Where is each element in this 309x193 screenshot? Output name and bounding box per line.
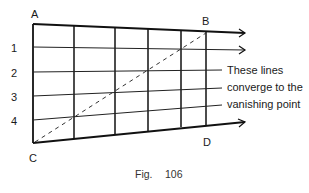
annotation-line-1: These lines bbox=[227, 64, 284, 76]
point-label-d: D bbox=[203, 136, 211, 148]
figure-caption-number: 106 bbox=[165, 168, 183, 180]
bottom-edge-cd bbox=[33, 122, 245, 143]
row-line-4 bbox=[33, 105, 222, 120]
top-edge-ab bbox=[33, 24, 245, 33]
annotation-line-3: vanishing point bbox=[227, 98, 300, 110]
row-label-4: 4 bbox=[11, 115, 17, 127]
row-label-1: 1 bbox=[11, 42, 17, 54]
perspective-grid-diagram: A B C D 1 2 3 4 These lines converge to … bbox=[0, 0, 309, 193]
point-label-b: B bbox=[202, 15, 209, 27]
row-line-2 bbox=[33, 70, 222, 72]
point-label-a: A bbox=[31, 8, 39, 20]
row-line-1 bbox=[33, 47, 245, 50]
row-line-3 bbox=[33, 88, 222, 96]
figure-caption-prefix: Fig. bbox=[135, 168, 153, 180]
annotation-line-2: converge to the bbox=[227, 81, 303, 93]
row-label-3: 3 bbox=[11, 91, 17, 103]
row-label-2: 2 bbox=[11, 67, 17, 79]
point-label-c: C bbox=[29, 152, 37, 164]
